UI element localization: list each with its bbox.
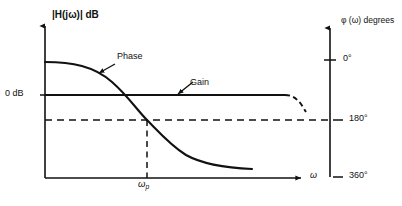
tick-label-0-degrees: 0°: [343, 54, 352, 63]
y-axis-right-label: φ (ω) degrees: [341, 16, 394, 25]
phase-curve: [45, 62, 252, 169]
tick-label-360-degrees: 360°: [349, 171, 368, 180]
cutoff-frequency-label: ωp: [138, 179, 149, 191]
y-axis-left-label: |H(jω)| dB: [52, 10, 99, 20]
gain-curve: [45, 95, 306, 112]
phase-leader-line: [99, 64, 115, 73]
tick-label-180-degrees: 180°: [349, 114, 368, 123]
x-axis-label: ω: [310, 171, 317, 180]
plot-canvas: [0, 0, 402, 206]
zero-db-label: 0 dB: [5, 89, 24, 98]
gain-annotation-label: Gain: [190, 78, 209, 87]
phase-annotation-label: Phase: [117, 52, 143, 61]
y-axis-right: [324, 28, 343, 177]
bode-plot-figure: |H(jω)| dB φ (ω) degrees 0 dB ω ωp Phase…: [0, 0, 402, 206]
